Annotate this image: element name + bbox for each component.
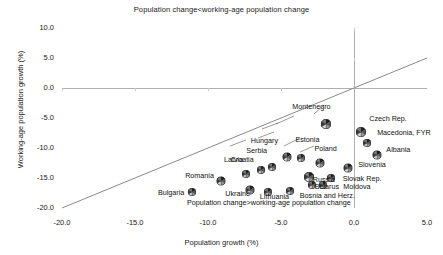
- annotation-below-line: Population change>working-age population…: [187, 198, 351, 207]
- data-point[interactable]: [363, 133, 371, 141]
- point-label: Albania: [386, 146, 410, 154]
- point-label: Czech Rep.: [369, 115, 407, 123]
- data-point[interactable]: [282, 147, 291, 156]
- point-label: Bulgaria: [158, 189, 184, 197]
- y-tick-label: -15.0: [10, 174, 54, 182]
- data-point[interactable]: [268, 157, 276, 165]
- data-point[interactable]: [242, 164, 250, 172]
- x-tick-label: -5.0: [258, 219, 304, 227]
- scatter-chart: Population change<working-age population…: [0, 0, 443, 255]
- y-tick-label: -5.0: [10, 114, 54, 122]
- x-tick-label: -15.0: [112, 219, 158, 227]
- x-tick-label: -20.0: [39, 219, 85, 227]
- data-point[interactable]: [246, 180, 255, 189]
- data-point[interactable]: [321, 115, 331, 125]
- point-label: Slovenia: [358, 161, 386, 169]
- data-point[interactable]: [373, 145, 382, 154]
- point-label: Belarus: [315, 183, 339, 191]
- data-point[interactable]: [257, 160, 265, 168]
- point-label: Serbia: [246, 147, 267, 155]
- point-label: Montenegro: [292, 103, 330, 111]
- y-tick-label: 10.0: [10, 24, 54, 32]
- plot-area: MontenegroCzech Rep.Macedonia, FYRAlbani…: [62, 28, 427, 208]
- point-label: Latvia: [224, 156, 243, 164]
- data-point[interactable]: [316, 153, 325, 162]
- data-point[interactable]: [264, 182, 272, 190]
- y-tick-label: 5.0: [10, 54, 54, 62]
- y-tick-label: -10.0: [10, 144, 54, 152]
- point-label: Moldova: [343, 183, 370, 191]
- point-label: Romania: [185, 172, 214, 180]
- point-label: Hungary: [251, 137, 278, 145]
- point-label: Estonia: [295, 136, 319, 144]
- x-axis-label: Population growth (%): [0, 238, 443, 247]
- data-point[interactable]: [356, 123, 366, 133]
- x-tick-label: 5.0: [404, 219, 443, 227]
- y-tick-label: -20.0: [10, 204, 54, 212]
- data-point[interactable]: [286, 181, 294, 189]
- chart-title: Population change<working-age population…: [0, 5, 443, 14]
- y-tick-label: 0.0: [10, 84, 54, 92]
- x-tick-label: -10.0: [185, 219, 231, 227]
- point-label: Macedonia, FYR: [377, 129, 431, 137]
- x-tick-label: 0.0: [331, 219, 377, 227]
- data-point[interactable]: [188, 182, 196, 190]
- data-point[interactable]: [344, 159, 353, 168]
- data-point[interactable]: [217, 171, 226, 180]
- point-label: Ukraine: [225, 190, 250, 198]
- data-point[interactable]: [297, 148, 305, 156]
- point-label: Poland: [314, 145, 336, 153]
